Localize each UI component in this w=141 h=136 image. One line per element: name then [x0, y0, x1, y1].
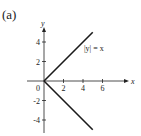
x-axis-arrow-icon	[124, 79, 129, 83]
x-tick-label: 0	[36, 84, 40, 93]
series-line	[44, 32, 93, 81]
x-axis: 0 2 4 6 x	[27, 77, 135, 93]
y-tick-label: -4	[33, 116, 40, 125]
x-tick-label: 6	[101, 84, 105, 93]
y-tick-label: 2	[36, 58, 40, 67]
y-axis-label: y	[40, 19, 45, 28]
y-tick-label: -2	[33, 97, 40, 106]
y-axis: 4 2 -2 -4 y	[33, 19, 46, 133]
series-line	[44, 81, 93, 130]
x-tick-label: 2	[62, 84, 66, 93]
x-axis-label: x	[130, 77, 135, 86]
y-tick-label: 4	[36, 38, 40, 47]
x-tick-label: 4	[81, 84, 85, 93]
equation-annotation: |y| = x	[84, 44, 104, 53]
chart-plot: 0 2 4 6 x 4 2 -2 -4 y |y| = x	[0, 0, 141, 136]
